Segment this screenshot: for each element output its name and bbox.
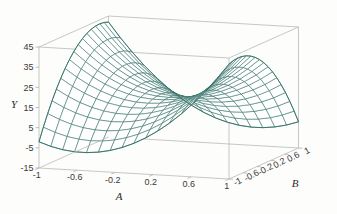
tick-label-y-0: -15	[20, 163, 33, 173]
tick-label-y-4: 25	[23, 83, 33, 93]
tick-label-y-5: 35	[23, 62, 33, 72]
tick-label-a-0: -1	[33, 170, 41, 180]
axis-title-a: A	[115, 190, 123, 202]
tick-label-a-2: -0.2	[105, 175, 121, 185]
tick-label-a-3: 0.2	[145, 177, 158, 187]
tick-label-a-5: 1	[224, 181, 229, 191]
tick-label-y-3: 15	[23, 103, 33, 113]
surface-plot-figure: -15-5515253545-1-0.6-0.20.20.61-1-0.6-0.…	[0, 0, 337, 214]
tick-label-a-4: 0.6	[183, 179, 196, 189]
tick-label-y-2: 5	[28, 123, 33, 133]
tick-label-a-1: -0.6	[67, 172, 83, 182]
axis-title-b: B	[292, 177, 299, 189]
tick-label-y-6: 45	[23, 42, 33, 52]
plot-canvas: -15-5515253545-1-0.6-0.20.20.61-1-0.6-0.…	[0, 0, 337, 214]
tick-label-y-1: -5	[25, 143, 33, 153]
